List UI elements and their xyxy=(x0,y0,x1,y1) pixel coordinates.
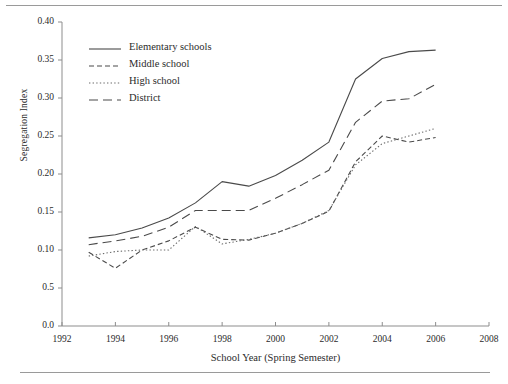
x-tick-label: 1998 xyxy=(200,334,244,344)
x-tick-label: 2006 xyxy=(414,334,458,344)
series-line-district xyxy=(89,84,436,244)
legend-item-district: District xyxy=(88,89,268,106)
y-tick-label: 0.30 xyxy=(20,92,54,102)
legend-key-icon xyxy=(88,58,122,70)
legend-key-icon xyxy=(88,92,122,104)
x-tick-label: 2008 xyxy=(467,334,508,344)
series-line-high-school xyxy=(89,128,436,256)
x-tick-label: 1994 xyxy=(93,334,137,344)
x-tick-label: 2002 xyxy=(307,334,351,344)
x-tick-label: 2000 xyxy=(254,334,298,344)
legend-item-middle-school: Middle school xyxy=(88,55,268,72)
legend-item-label: District xyxy=(129,92,161,103)
series-line-middle-school xyxy=(89,136,436,268)
legend-item-label: High school xyxy=(129,75,180,86)
x-tick-label: 1992 xyxy=(40,334,84,344)
legend-key-icon xyxy=(88,41,122,53)
legend-key-icon xyxy=(88,75,122,87)
chart-legend: Elementary schoolsMiddle schoolHigh scho… xyxy=(88,38,268,106)
figure-container: Segregation Index School Year (Spring Se… xyxy=(0,0,508,384)
y-tick-label: 0.10 xyxy=(20,244,54,254)
y-tick-label: 0.15 xyxy=(20,206,54,216)
y-tick-label: 0.40 xyxy=(20,16,54,26)
legend-item-elementary-schools: Elementary schools xyxy=(88,38,268,55)
legend-item-label: Elementary schools xyxy=(129,41,212,52)
y-tick-label: 0.35 xyxy=(20,54,54,64)
legend-item-high-school: High school xyxy=(88,72,268,89)
y-tick-label: 0.0 xyxy=(20,320,54,330)
y-tick-label: 0.5 xyxy=(20,282,54,292)
y-tick-label: 0.20 xyxy=(20,168,54,178)
y-tick-label: 0.25 xyxy=(20,130,54,140)
legend-item-label: Middle school xyxy=(129,58,189,69)
x-tick-label: 2004 xyxy=(360,334,404,344)
x-tick-label: 1996 xyxy=(147,334,191,344)
